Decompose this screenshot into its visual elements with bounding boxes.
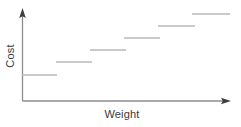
step-chart-figure: Cost Weight [0, 0, 241, 127]
y-axis-label: Cost [4, 44, 16, 67]
chart-canvas: Cost Weight [0, 0, 241, 127]
x-axis-label: Weight [104, 108, 139, 120]
step-series [22, 14, 230, 75]
